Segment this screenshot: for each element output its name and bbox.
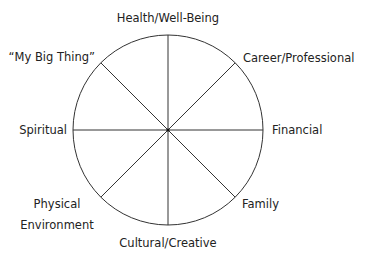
wheel-center-dot [166, 128, 169, 131]
label-physical-line2: Environment [20, 218, 94, 232]
label-my-big-thing: “My Big Thing” [9, 50, 95, 64]
wheel-diagram: Health/Well-Being Career/Professional Fi… [0, 0, 369, 265]
label-health: Health/Well-Being [117, 11, 219, 25]
label-cultural: Cultural/Creative [119, 236, 216, 250]
label-spiritual: Spiritual [19, 123, 67, 137]
label-career: Career/Professional [243, 51, 354, 65]
label-family: Family [242, 197, 279, 211]
label-financial: Financial [272, 123, 322, 137]
label-physical-line1: Physical [34, 197, 81, 211]
